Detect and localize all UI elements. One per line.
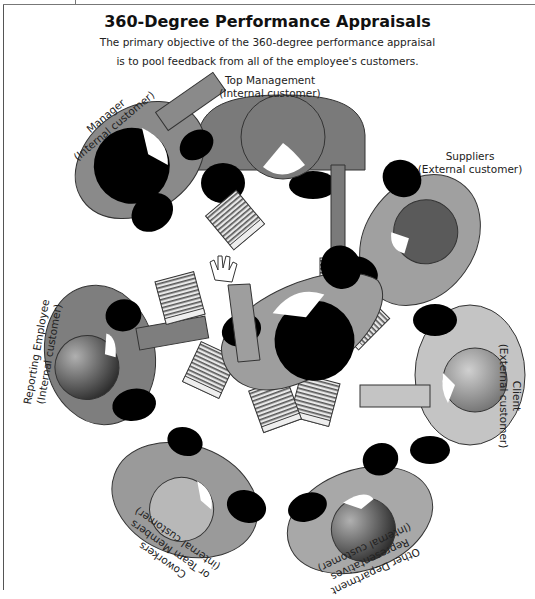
label-top-management: Top Management (Internal customer) (215, 74, 325, 100)
reporting-employee-paper (155, 272, 205, 325)
label-client: Client (External customer) (497, 341, 523, 451)
label-suppliers: Suppliers (External customer) (410, 150, 530, 176)
raised-hand-icon (210, 256, 237, 282)
person-top-management (198, 95, 365, 267)
